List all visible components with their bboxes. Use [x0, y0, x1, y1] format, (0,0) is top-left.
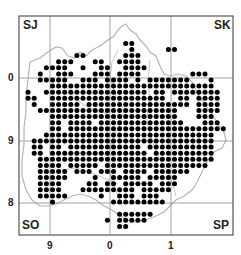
- y-tick-label: 9: [8, 135, 14, 146]
- x-tick-label: 1: [168, 240, 174, 251]
- x-tick-label: 9: [47, 240, 53, 251]
- x-tick-label: 0: [107, 240, 113, 251]
- grid-square-label: SK: [214, 18, 231, 32]
- grid-square-label: SO: [22, 218, 39, 232]
- y-tick-label: 0: [8, 72, 14, 83]
- y-tick-label: 8: [8, 197, 14, 208]
- distribution-map: [0, 0, 241, 255]
- grid-square-label: SP: [213, 218, 229, 232]
- record-dots: [26, 41, 226, 229]
- grid-square-label: SJ: [23, 18, 38, 32]
